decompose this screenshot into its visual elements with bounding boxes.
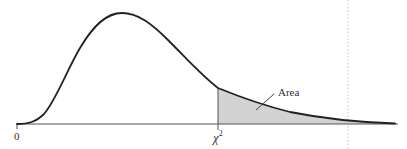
chi-square-chart: 0 χ2 Area: [0, 0, 407, 149]
critical-value-label: χ2: [211, 129, 223, 145]
critical-value-superscript: 2: [219, 129, 223, 138]
area-label: Area: [278, 86, 299, 98]
density-curve: [17, 13, 395, 124]
shaded-tail-area: [218, 88, 395, 124]
origin-label: 0: [14, 130, 20, 142]
